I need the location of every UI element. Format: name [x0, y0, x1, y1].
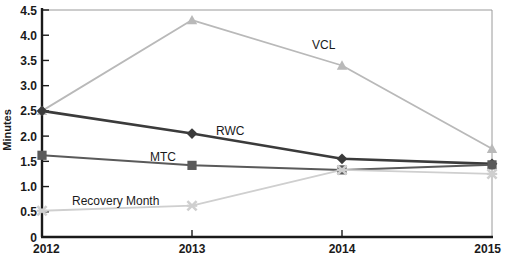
x-axis-tick-labels: 2012201320142015	[33, 242, 501, 256]
data-point-rwc	[187, 128, 198, 139]
y-tick-label: 4.5	[20, 4, 37, 18]
x-tick-label: 2015	[474, 242, 501, 256]
series-label-recovery-month: Recovery Month	[72, 194, 159, 208]
y-tick-label: 3.5	[20, 54, 37, 68]
y-tick-label: 1.5	[20, 155, 37, 169]
y-tick-label: 2.0	[20, 130, 37, 144]
series-label-rwc: RWC	[216, 124, 245, 138]
y-axis-tick-labels: 00.51.01.52.02.53.03.54.04.5	[20, 4, 37, 245]
line-chart: 00.51.01.52.02.53.03.54.04.5 20122013201…	[0, 0, 507, 259]
series-line-vcl	[42, 20, 492, 149]
y-tick-label: 2.5	[20, 104, 37, 118]
data-point-recovery-month	[187, 201, 197, 210]
data-point-mtc	[187, 161, 196, 170]
series-label-mtc: MTC	[150, 150, 176, 164]
x-tick-label: 2012	[33, 242, 60, 256]
x-tick-label: 2014	[329, 242, 356, 256]
y-tick-label: 0.5	[20, 205, 37, 219]
series-label-vcl: VCL	[312, 38, 336, 52]
series-line-rwc	[42, 111, 492, 164]
y-tick-label: 1.0	[20, 180, 37, 194]
y-tick-label: 3.0	[20, 79, 37, 93]
series-labels: VCLRWCMTCRecovery Month	[72, 38, 336, 208]
x-axis: 2012201320142015	[33, 230, 501, 256]
y-axis-title: Minutes	[1, 109, 13, 151]
data-point-rwc	[337, 153, 348, 164]
series-markers	[37, 15, 498, 215]
data-point-mtc	[37, 151, 46, 160]
data-point-mtc	[487, 160, 496, 169]
data-point-vcl	[187, 15, 197, 24]
y-tick-label: 4.0	[20, 29, 37, 43]
chart-canvas: 00.51.01.52.02.53.03.54.04.5 20122013201…	[0, 0, 507, 259]
x-tick-label: 2013	[179, 242, 206, 256]
data-point-vcl	[487, 144, 497, 153]
series-lines	[42, 20, 492, 211]
